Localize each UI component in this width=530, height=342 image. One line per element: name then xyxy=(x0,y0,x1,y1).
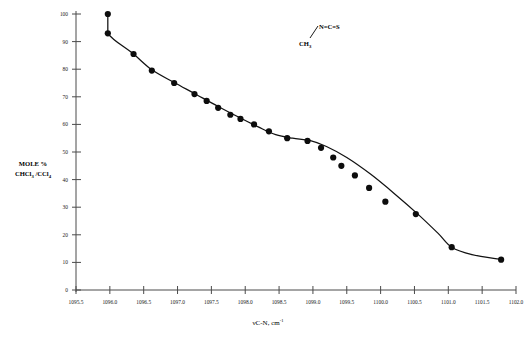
y-axis-title-sub4: 4 xyxy=(49,174,52,179)
chart-svg: 0102030405060708090100 1095.51096.01096.… xyxy=(0,0,530,342)
structure-bond-line xyxy=(310,26,318,38)
data-point xyxy=(105,11,111,17)
x-tick-label: 1100.5 xyxy=(407,299,422,305)
data-points-group xyxy=(105,11,504,263)
x-tick-label: 1102.0 xyxy=(509,299,524,305)
x-axis-title-main: νC-N, cm xyxy=(252,319,280,327)
y-tick-label: 70 xyxy=(63,94,69,100)
y-tick-label: 10 xyxy=(63,259,69,265)
chart-figure: 0102030405060708090100 1095.51096.01096.… xyxy=(0,0,530,342)
x-tick-label: 1099.0 xyxy=(306,299,321,305)
data-point xyxy=(352,172,358,178)
y-tick-label: 100 xyxy=(60,11,68,17)
data-point xyxy=(304,138,310,144)
fitted-curve xyxy=(108,14,501,260)
y-axis-title-chcl3: CHCl xyxy=(15,170,32,177)
data-point xyxy=(330,154,336,160)
data-point xyxy=(191,91,197,97)
fitted-curve-group xyxy=(108,14,501,260)
data-point xyxy=(105,30,111,36)
y-tick-label: 30 xyxy=(63,204,69,210)
y-tick-label: 80 xyxy=(63,66,69,72)
y-tick-label: 0 xyxy=(65,287,68,293)
data-point xyxy=(149,67,155,73)
x-axis-title: νC-N, cm-1 xyxy=(252,318,284,327)
x-tick-label: 1101.5 xyxy=(475,299,490,305)
y-axis-title-line2: CHCl3 /CCl4 xyxy=(15,170,52,179)
data-point xyxy=(449,244,455,250)
structure-top-label: N=C=S xyxy=(319,23,340,30)
x-tick-label: 1097.0 xyxy=(170,299,185,305)
data-point xyxy=(366,185,372,191)
x-tick-label: 1096.5 xyxy=(136,299,151,305)
x-axis: 1095.51096.01096.51097.01097.51098.01098… xyxy=(69,286,524,305)
y-tick-label: 90 xyxy=(63,39,69,45)
data-point xyxy=(413,211,419,217)
data-point xyxy=(171,80,177,86)
data-point xyxy=(338,163,344,169)
data-point xyxy=(227,112,233,118)
methyl-isothiocyanate-structure: N=C=S CH3 xyxy=(299,23,340,49)
data-point xyxy=(251,121,257,127)
x-axis-title-text: νC-N, cm-1 xyxy=(252,318,284,327)
x-tick-label: 1097.5 xyxy=(204,299,219,305)
x-tick-label: 1098.5 xyxy=(272,299,287,305)
y-tick-group: 0102030405060708090100 xyxy=(60,11,81,293)
x-tick-label: 1095.5 xyxy=(69,299,84,305)
x-tick-label: 1098.0 xyxy=(238,299,253,305)
y-tick-label: 20 xyxy=(63,232,69,238)
data-point xyxy=(130,51,136,57)
x-tick-label: 1099.5 xyxy=(339,299,354,305)
data-point xyxy=(318,145,324,151)
data-point xyxy=(237,116,243,122)
data-point xyxy=(215,105,221,111)
y-tick-label: 50 xyxy=(63,149,69,155)
y-axis: 0102030405060708090100 xyxy=(60,11,81,293)
data-point xyxy=(266,128,272,134)
data-point xyxy=(204,98,210,104)
structure-bottom-label: CH3 xyxy=(299,40,312,49)
data-point xyxy=(498,257,504,263)
data-point xyxy=(284,135,290,141)
y-axis-title: MOLE % CHCl3 /CCl4 xyxy=(15,160,52,179)
x-tick-group: 1095.51096.01096.51097.01097.51098.01098… xyxy=(69,286,524,305)
y-axis-title-ccl4: /CCl xyxy=(34,170,49,177)
x-tick-label: 1096.0 xyxy=(102,299,117,305)
y-axis-title-line1: MOLE % xyxy=(19,160,47,167)
data-point xyxy=(382,199,388,205)
x-tick-label: 1100.0 xyxy=(373,299,388,305)
y-tick-label: 40 xyxy=(63,177,69,183)
structure-ch-subscript: 3 xyxy=(309,44,312,49)
x-tick-label: 1101.0 xyxy=(441,299,456,305)
y-tick-label: 60 xyxy=(63,121,69,127)
x-axis-title-superscript: -1 xyxy=(280,318,285,323)
